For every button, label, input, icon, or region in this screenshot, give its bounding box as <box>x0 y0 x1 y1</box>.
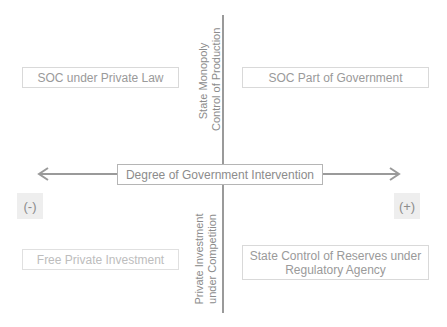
horizontal-axis-label-box: Degree of Government Intervention <box>117 164 323 185</box>
state-monopoly-label: State Monopoly Control of Production <box>197 31 227 131</box>
quadrant-bottom-right-line1: State Control of Reserves under <box>250 249 421 263</box>
negative-sign-label: (-) <box>24 199 37 214</box>
quadrant-bottom-right-box: State Control of Reserves under Regulato… <box>242 245 429 280</box>
quadrant-bottom-left-box: Free Private Investment <box>22 249 179 270</box>
private-investment-line1: Private Investment <box>193 209 206 309</box>
state-monopoly-line1: State Monopoly <box>197 31 210 131</box>
horizontal-axis-label: Degree of Government Intervention <box>126 168 314 182</box>
quadrant-top-left-box: SOC under Private Law <box>22 67 179 88</box>
quadrant-top-right-label: SOC Part of Government <box>268 71 402 85</box>
quadrant-top-left-label: SOC under Private Law <box>37 71 163 85</box>
quadrant-bottom-right-line2: Regulatory Agency <box>285 263 386 277</box>
positive-sign-marker: (+) <box>394 193 420 219</box>
negative-sign-marker: (-) <box>17 193 43 219</box>
quadrant-bottom-left-label: Free Private Investment <box>37 253 164 267</box>
quadrant-top-right-box: SOC Part of Government <box>242 67 429 88</box>
positive-sign-label: (+) <box>399 199 415 214</box>
private-investment-label: Private Investment under Competition <box>193 209 223 309</box>
state-monopoly-line2: Control of Production <box>210 31 223 131</box>
private-investment-line2: under Competition <box>206 209 219 309</box>
